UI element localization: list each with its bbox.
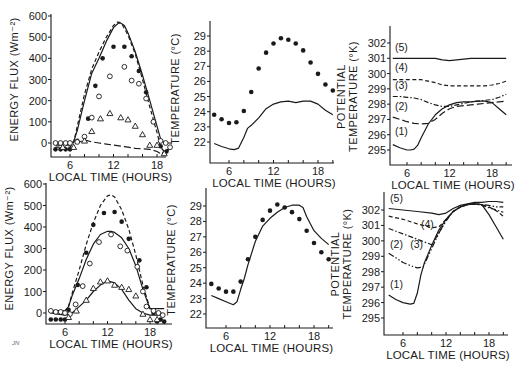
- data-point-filled: [256, 66, 261, 71]
- x-axis-title: LOCAL TIME (HOURS): [212, 177, 336, 189]
- x-tick-label: 18: [483, 337, 495, 349]
- data-point-filled: [58, 317, 63, 322]
- data-point-triangle: [90, 285, 96, 290]
- y-tick-label: 300: [24, 243, 42, 255]
- curve-label: (3): [395, 79, 408, 91]
- data-point-open: [97, 94, 102, 99]
- axis-lines: [51, 14, 166, 157]
- data-point-open: [73, 302, 78, 307]
- y-tick-label: 302: [362, 204, 380, 216]
- y-tick-label: 500: [29, 31, 47, 43]
- y-tick-label: 295: [362, 312, 380, 324]
- data-point-filled: [282, 205, 287, 210]
- curve-label: (2): [390, 238, 403, 250]
- data-point-filled: [316, 72, 321, 77]
- y-tick-label: 23: [190, 293, 202, 305]
- y-tick-label: 200: [24, 264, 42, 276]
- y-tick-label: 23: [194, 121, 206, 133]
- x-tick-label: 6: [404, 167, 410, 179]
- data-point-filled: [212, 112, 217, 117]
- data-point-open: [75, 140, 80, 145]
- data-point-open: [48, 308, 53, 313]
- y-tick-label: 29: [194, 30, 206, 42]
- y-tick-label: 22: [190, 308, 202, 320]
- data-point-open: [158, 138, 163, 143]
- x-tick-label: 12: [440, 337, 452, 349]
- y-tick-label: 300: [362, 235, 380, 247]
- x-tick-label: 12: [101, 326, 113, 338]
- x-tick-label: 6: [223, 330, 229, 342]
- data-point-filled: [84, 251, 89, 256]
- data-point-filled: [111, 44, 116, 49]
- x-tick-label: 6: [226, 165, 232, 177]
- data-point-filled: [119, 219, 124, 224]
- data-point-open: [144, 304, 149, 309]
- y-tick-label: 295: [368, 144, 386, 156]
- y-tick-label: 302: [368, 37, 386, 49]
- data-point-triangle: [107, 110, 113, 115]
- series-line: [389, 202, 504, 215]
- data-point-filled: [53, 317, 58, 322]
- y-tick-label: 600: [24, 178, 42, 190]
- panel-potential-temperature-top: 61218LOCAL TIME (HOURS)29529629729829930…: [335, 26, 515, 191]
- data-point-filled: [102, 211, 107, 216]
- x-tick-label: 18: [151, 159, 163, 171]
- data-point-triangle: [97, 279, 103, 284]
- data-point-filled: [323, 82, 328, 87]
- data-point-filled: [122, 44, 127, 49]
- y-tick-label: 100: [29, 116, 47, 128]
- data-point-filled: [312, 241, 317, 246]
- data-point-triangle: [126, 286, 132, 291]
- data-point-filled: [234, 120, 239, 125]
- data-point-filled: [224, 289, 229, 294]
- curve-label: (4): [395, 61, 408, 73]
- y-axis-title-line2: TEMPERATURE (°K): [347, 41, 359, 152]
- data-point-filled: [137, 69, 142, 74]
- series-line: [51, 231, 164, 311]
- data-point-open: [163, 141, 168, 146]
- curve-label: (1): [395, 125, 408, 137]
- data-point-filled: [49, 317, 54, 322]
- data-point-triangle: [147, 142, 153, 147]
- y-axis-title: ENERGY FLUX (Wm⁻²): [3, 186, 15, 310]
- data-point-filled: [286, 37, 291, 42]
- panel-potential-temperature-bottom: 61218LOCAL TIME (HOURS)29529629729829930…: [329, 192, 510, 361]
- data-point-filled: [246, 257, 251, 262]
- data-point-open: [122, 64, 127, 69]
- y-tick-label: 297: [362, 281, 380, 293]
- data-point-filled: [129, 54, 134, 59]
- data-point-filled: [219, 117, 224, 122]
- y-tick-label: 300: [368, 68, 386, 80]
- data-point-open: [63, 311, 68, 316]
- series-line: [393, 58, 506, 60]
- data-point-open: [151, 119, 156, 124]
- data-point-triangle: [125, 117, 131, 122]
- data-point-triangle: [97, 116, 103, 121]
- y-tick-label: 296: [368, 129, 386, 141]
- y-tick-label: 29: [190, 200, 202, 212]
- y-tick-label: 299: [368, 83, 386, 95]
- data-point-open: [97, 240, 102, 245]
- y-tick-label: 298: [368, 98, 386, 110]
- y-tick-label: 600: [29, 10, 47, 22]
- y-tick-label: 27: [190, 231, 202, 243]
- data-point-open: [136, 81, 141, 86]
- data-point-filled: [319, 250, 324, 255]
- y-tick-label: 0: [36, 307, 42, 319]
- y-tick-label: 301: [362, 219, 380, 231]
- y-tick-label: 25: [194, 91, 206, 103]
- data-point-filled: [304, 228, 309, 233]
- data-point-open: [109, 232, 114, 237]
- x-axis-title: LOCAL TIME (HOURS): [49, 171, 173, 183]
- data-point-open: [68, 141, 73, 146]
- data-point-filled: [137, 258, 142, 263]
- y-tick-label: 301: [368, 52, 386, 64]
- y-tick-label: 25: [190, 262, 202, 274]
- y-tick-label: 100: [24, 286, 42, 298]
- y-tick-label: 300: [29, 74, 47, 86]
- curve-label: (3): [410, 238, 423, 250]
- data-point-open: [118, 244, 123, 249]
- data-point-filled: [216, 286, 221, 291]
- data-point-filled: [93, 84, 98, 89]
- data-point-filled: [264, 50, 269, 55]
